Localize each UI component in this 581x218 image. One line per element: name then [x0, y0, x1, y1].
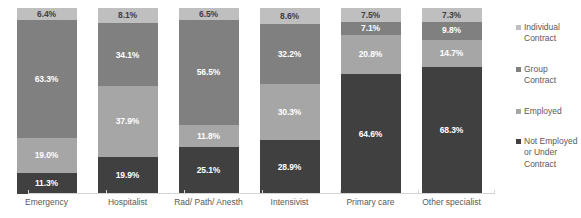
legend-item-label: Employed [524, 106, 580, 117]
bar-column: 6.5%56.5%11.8%25.1% [171, 8, 246, 194]
x-axis-tick [494, 190, 495, 194]
bar-segment-value-label: 34.1% [116, 51, 140, 60]
bar-segment-value-label: 19.0% [35, 151, 59, 160]
bar-segment-value-label: 63.3% [35, 75, 59, 84]
x-axis-tick [262, 190, 263, 194]
chart-legend: Individual ContractGroup ContractEmploye… [516, 14, 581, 194]
bar-segment-value-label: 7.3% [442, 11, 461, 20]
x-axis-category-label: Other specialist [414, 198, 489, 216]
legend-swatch-icon [516, 67, 521, 72]
bar-segment-value-label: 9.8% [442, 26, 461, 35]
bar-segment-value-label: 64.6% [359, 130, 383, 139]
stacked-bar: 6.4%63.3%19.0%11.3% [17, 8, 77, 194]
bar-segment-value-label: 32.2% [278, 50, 302, 59]
bar-segment-value-label: 7.1% [361, 24, 380, 33]
bar-segment: 7.3% [422, 8, 482, 22]
bar-segment-value-label: 6.5% [199, 10, 218, 19]
bar-segment: 28.9% [260, 140, 320, 194]
x-axis-category-label: Hospitalist [90, 198, 165, 216]
stacked-bar: 6.5%56.5%11.8%25.1% [179, 8, 239, 194]
x-axis-category-label: Intensivist [252, 198, 327, 216]
bar-segment: 64.6% [341, 74, 401, 194]
bar-segment: 68.3% [422, 67, 482, 194]
bar-segment-value-label: 6.4% [37, 10, 56, 19]
bar-segment-value-label: 30.3% [278, 108, 302, 117]
legend-swatch-icon [516, 109, 521, 114]
x-axis-category-label: Rad/ Path/ Anesth [171, 198, 246, 216]
x-axis-category-label: Primary care [333, 198, 408, 216]
x-axis-tick [418, 190, 419, 194]
x-axis-tick [106, 190, 107, 194]
bar-segment-value-label: 11.8% [197, 132, 220, 141]
legend-swatch-icon [516, 25, 521, 30]
x-axis-tick [184, 190, 185, 194]
legend-item[interactable]: Individual Contract [516, 22, 580, 45]
legend-item[interactable]: Not Employed or Under Contract [516, 136, 580, 170]
stacked-bar-chart: 6.4%63.3%19.0%11.3%8.1%34.1%37.9%19.9%6.… [0, 0, 581, 218]
bar-segment: 7.1% [341, 22, 401, 35]
bar-segment: 7.5% [341, 8, 401, 22]
bar-column: 8.6%32.2%30.3%28.9% [252, 8, 327, 194]
legend-item-label: Individual Contract [524, 22, 580, 45]
plot-area: 6.4%63.3%19.0%11.3%8.1%34.1%37.9%19.9%6.… [0, 8, 498, 194]
bar-segment-value-label: 19.9% [116, 171, 140, 180]
bar-segment: 34.1% [98, 23, 158, 86]
x-axis-category-labels: EmergencyHospitalistRad/ Path/ AnesthInt… [0, 198, 498, 216]
bar-segment: 32.2% [260, 24, 320, 84]
bar-segment: 20.8% [341, 35, 401, 74]
bar-segment-value-label: 14.7% [440, 49, 464, 58]
bar-segment: 8.1% [98, 8, 158, 23]
bar-segment: 37.9% [98, 86, 158, 157]
bar-segment-value-label: 8.6% [280, 12, 299, 21]
x-axis-line [28, 193, 494, 194]
stacked-bar: 8.6%32.2%30.3%28.9% [260, 8, 320, 194]
bar-segment: 56.5% [179, 20, 239, 125]
bar-segment: 6.5% [179, 8, 239, 20]
bar-segment: 8.6% [260, 8, 320, 24]
bar-column: 6.4%63.3%19.0%11.3% [9, 8, 84, 194]
bar-segment-value-label: 20.8% [359, 50, 383, 59]
bar-segment: 19.9% [98, 157, 158, 194]
bar-segment: 19.0% [17, 138, 77, 173]
x-axis-category-label: Emergency [9, 198, 84, 216]
bar-segment-value-label: 37.9% [116, 117, 140, 126]
bar-segment: 9.8% [422, 22, 482, 40]
stacked-bar: 7.3%9.8%14.7%68.3% [422, 8, 482, 194]
bar-segment: 11.8% [179, 125, 239, 147]
bar-segment-value-label: 25.1% [197, 166, 221, 175]
bar-segment: 11.3% [17, 173, 77, 194]
bar-segment: 63.3% [17, 20, 77, 138]
bar-segment: 30.3% [260, 84, 320, 140]
bar-column: 8.1%34.1%37.9%19.9% [90, 8, 165, 194]
bar-segment: 25.1% [179, 147, 239, 194]
legend-item-label: Not Employed or Under Contract [524, 136, 580, 170]
stacked-bar: 8.1%34.1%37.9%19.9% [98, 8, 158, 194]
bar-segment-value-label: 28.9% [278, 163, 302, 172]
legend-item-label: Group Contract [524, 64, 580, 87]
x-axis-tick [28, 190, 29, 194]
legend-item[interactable]: Employed [516, 106, 580, 117]
bar-segment: 6.4% [17, 8, 77, 20]
bar-segment-value-label: 68.3% [440, 126, 464, 135]
legend-item[interactable]: Group Contract [516, 64, 580, 87]
legend-swatch-icon [516, 139, 521, 144]
bar-column: 7.3%9.8%14.7%68.3% [414, 8, 489, 194]
bar-segment-value-label: 8.1% [118, 11, 137, 20]
bar-column: 7.5%7.1%20.8%64.6% [333, 8, 408, 194]
x-axis-tick [340, 190, 341, 194]
stacked-bar: 7.5%7.1%20.8%64.6% [341, 8, 401, 194]
bar-segment-value-label: 7.5% [361, 11, 380, 20]
bar-segment-value-label: 56.5% [197, 68, 221, 77]
bar-segment: 14.7% [422, 40, 482, 67]
bar-segment-value-label: 11.3% [35, 179, 58, 188]
